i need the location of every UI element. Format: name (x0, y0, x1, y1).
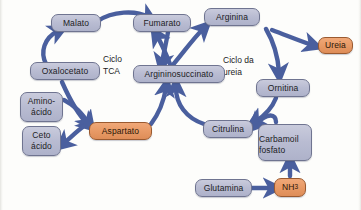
node-amino-acido[interactable]: Amino- ácido (20, 92, 63, 122)
edge-citrulina-argininosuccinato (176, 88, 204, 124)
cycle-label-ureia-line1: Ciclo da (223, 55, 254, 67)
node-citrulina-label: Citrulina (212, 124, 244, 135)
node-ornitina-label: Ornitina (268, 83, 299, 94)
edge-arginina-ornitina (266, 29, 279, 72)
node-carbamoil-fosfato[interactable]: Carbamoil fosfato (258, 124, 312, 161)
edge-oxalocetato-malato (43, 31, 58, 64)
node-fumarato[interactable]: Fumarato (133, 14, 191, 32)
cycle-label-tca-line2: TCA (103, 66, 122, 78)
node-carbamoil-fosfato-label-line1: Carbamoil (259, 134, 299, 145)
cycle-label-ureia: Ciclo da ureia (223, 55, 254, 78)
node-arginina-label: Arginina (216, 12, 248, 23)
edge-aspartato-argininosuccinato (151, 88, 166, 124)
edge-argininosuccinato-arginina (172, 29, 203, 66)
node-amino-acido-label-line1: Amino- (28, 96, 56, 107)
node-malato[interactable]: Malato (51, 14, 101, 32)
urea-cycle-diagram: Ciclo TCA Ciclo da ureia Malato Fumarato… (0, 0, 361, 210)
cycle-label-ureia-line2: ureia (223, 67, 254, 79)
node-oxalocetato[interactable]: Oxalocetato (30, 62, 100, 80)
node-aspartato[interactable]: Aspartato (89, 122, 152, 140)
node-amino-acido-label-line2: ácido (31, 107, 52, 118)
node-citrulina[interactable]: Citrulina (203, 120, 253, 138)
node-arginina[interactable]: Arginina (204, 8, 260, 26)
cycle-label-tca-line1: Ciclo (103, 54, 122, 66)
node-fumarato-label: Fumarato (143, 18, 180, 29)
node-argininosuccinato[interactable]: Argininosuccinato (133, 65, 225, 83)
node-carbamoil-fosfato-label-line2: fosfato (259, 145, 285, 156)
node-malato-label: Malato (63, 18, 89, 29)
node-nh3-label: NH (282, 182, 294, 193)
edge-aspartato-cetoacido (64, 126, 84, 143)
node-ureia-label: Ureia (325, 40, 346, 51)
node-aspartato-label: Aspartato (102, 126, 139, 137)
node-glutamina[interactable]: Glutamina (195, 179, 252, 197)
node-nh3-label-subscript: 3 (294, 182, 298, 193)
node-ornitina[interactable]: Ornitina (256, 79, 310, 97)
edge-aminoacido-aspartato (64, 100, 88, 122)
node-nh3[interactable]: NH3 (274, 178, 306, 197)
node-argininosuccinato-label: Argininosuccinato (145, 69, 214, 80)
cycle-label-tca: Ciclo TCA (103, 54, 122, 77)
node-ceto-acido-label-line2: ácido (31, 141, 52, 152)
node-ceto-acido-label-line1: Ceto (32, 130, 50, 141)
node-ureia[interactable]: Ureia (318, 37, 353, 54)
page-left-edge-shadow (0, 0, 3, 210)
node-oxalocetato-label: Oxalocetato (42, 66, 88, 77)
edge-arginina-ureia (272, 30, 312, 45)
node-ceto-acido[interactable]: Ceto ácido (22, 126, 61, 156)
node-glutamina-label: Glutamina (204, 183, 244, 194)
